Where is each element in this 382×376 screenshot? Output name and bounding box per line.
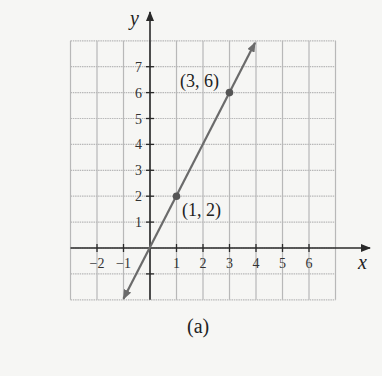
x-tick-label: 3 — [226, 256, 233, 271]
figure-caption: (a) — [187, 315, 209, 338]
y-tick-label: 2 — [135, 189, 142, 204]
y-tick-label: 6 — [135, 86, 142, 101]
y-tick-label: 7 — [135, 60, 142, 75]
point-label-1-2: (1, 2) — [182, 200, 221, 221]
y-tick-label: 3 — [135, 163, 142, 178]
line-graph: −2−11234561234567 y x (3, 6) (1, 2) (a) — [0, 0, 382, 376]
x-axis-label: x — [357, 251, 367, 273]
data-point — [173, 192, 181, 200]
x-tick-label: 1 — [173, 256, 180, 271]
y-tick-label: 4 — [135, 137, 142, 152]
x-tick-label: 5 — [279, 256, 286, 271]
x-tick-label: −2 — [90, 256, 105, 271]
point-label-3-6: (3, 6) — [180, 71, 219, 92]
y-tick-label: 1 — [135, 215, 142, 230]
x-tick-label: 2 — [200, 256, 207, 271]
x-tick-label: −1 — [116, 256, 131, 271]
x-tick-label: 4 — [253, 256, 260, 271]
y-tick-label: 5 — [135, 112, 142, 127]
y-axis-label: y — [128, 7, 139, 30]
data-point — [226, 89, 234, 97]
x-tick-label: 6 — [306, 256, 313, 271]
